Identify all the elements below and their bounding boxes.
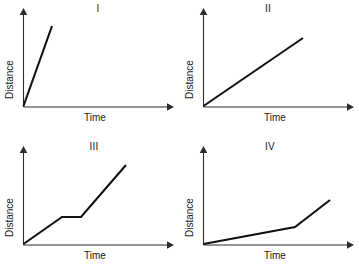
- y-axis-arrowhead-iv: [200, 146, 208, 153]
- y-axis-arrowhead-ii: [200, 8, 208, 15]
- panel-title-iv: IV: [250, 141, 290, 152]
- x-axis-arrowhead-i: [167, 103, 174, 111]
- distance-curve-iv: [204, 200, 331, 244]
- x-axis-arrowhead-iii: [167, 241, 174, 249]
- x-axis-label-ii: Time: [245, 112, 305, 123]
- graph-panel-iii: III Time Distance: [0, 138, 179, 276]
- y-axis-label-iv: Distance: [184, 198, 195, 237]
- distance-time-graph-figure: I Time Distance II Time Distance III Tim…: [0, 0, 359, 276]
- y-axis-label-i: Distance: [4, 60, 15, 99]
- y-axis-label-iii: Distance: [4, 198, 15, 237]
- y-axis-arrowhead-i: [20, 8, 28, 15]
- graph-panel-iv: IV Time Distance: [180, 138, 359, 276]
- distance-curve-i: [24, 26, 53, 106]
- distance-curve-iii: [24, 165, 127, 244]
- x-axis-label-iii: Time: [65, 250, 125, 261]
- panel-title-iii: III: [74, 141, 114, 152]
- y-axis-label-ii: Distance: [184, 60, 195, 99]
- x-axis-arrowhead-iv: [347, 241, 354, 249]
- x-axis-label-iv: Time: [245, 250, 305, 261]
- distance-curve-ii: [204, 38, 304, 106]
- graph-panel-ii: II Time Distance: [180, 0, 359, 138]
- x-axis-arrowhead-ii: [347, 103, 354, 111]
- x-axis-label-i: Time: [65, 112, 125, 123]
- panel-title-ii: II: [248, 3, 288, 14]
- y-axis-arrowhead-iii: [20, 146, 28, 153]
- graph-panel-i: I Time Distance: [0, 0, 179, 138]
- panel-title-i: I: [78, 3, 118, 14]
